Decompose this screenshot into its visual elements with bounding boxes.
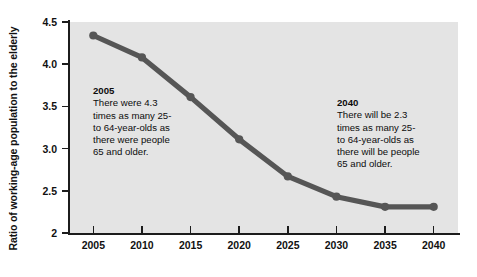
x-axis-tick [384, 226, 386, 235]
x-axis-line [68, 233, 460, 235]
x-axis-tick [433, 226, 435, 235]
y-axis-tick-label: 4.0 [17, 58, 57, 70]
y-axis-tick-label: 3.0 [17, 143, 57, 155]
x-axis-tick [238, 226, 240, 235]
y-axis-tick [62, 190, 70, 192]
y-axis-tick-label: 3.5 [17, 100, 57, 112]
y-axis-tick [62, 106, 70, 108]
annotation-2005-body: There were 4.3 times as many 25- to 64-y… [93, 97, 171, 157]
annotation-2005-year: 2005 [93, 85, 199, 97]
x-axis-tick-label: 2040 [404, 239, 464, 251]
annotation-2040: 2040There will be 2.3 times as many 25- … [337, 85, 455, 170]
x-axis-tick [93, 226, 95, 235]
x-axis-tick [190, 226, 192, 235]
annotation-2040-year: 2040 [337, 97, 455, 109]
x-axis-tick [141, 226, 143, 235]
x-axis-tick [287, 226, 289, 235]
y-axis-tick-label: 2.5 [17, 185, 57, 197]
y-axis-tick-label: 2 [17, 227, 57, 239]
y-axis-tick [62, 63, 70, 65]
y-axis-tick [62, 21, 70, 23]
y-axis-tick [62, 232, 70, 234]
annotation-2040-body: There will be 2.3 times as many 25- to 6… [337, 109, 420, 169]
y-axis-tick [62, 148, 70, 150]
y-axis-tick-label: 4.5 [17, 16, 57, 28]
chart-container: Ratio of working-age population to the e… [0, 0, 477, 277]
x-axis-tick [336, 226, 338, 235]
y-axis-line [68, 20, 70, 235]
annotation-2005: 2005There were 4.3 times as many 25- to … [93, 73, 199, 158]
